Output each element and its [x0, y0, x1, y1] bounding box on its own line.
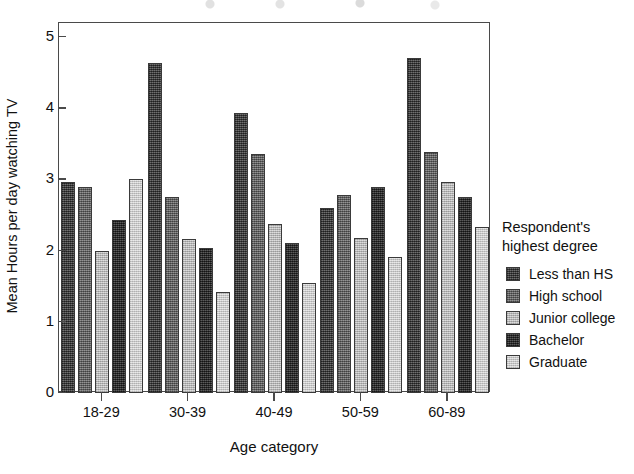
legend-item-label: Junior college [529, 310, 615, 326]
bar [371, 187, 385, 393]
legend-item: Bachelor [506, 329, 634, 351]
bar [61, 182, 75, 393]
legend-item: Less than HS [506, 263, 634, 285]
y-tick-line [58, 321, 66, 322]
bar [251, 154, 265, 393]
x-tick-line [101, 392, 102, 401]
bar [129, 179, 143, 393]
bar [216, 292, 230, 393]
legend-swatch [506, 333, 520, 347]
y-tick-label: 2 [46, 240, 54, 260]
legend-item: High school [506, 285, 634, 307]
bar [475, 227, 489, 393]
legend-item-label: Graduate [529, 354, 587, 370]
y-tick-line [58, 107, 66, 108]
bar [285, 243, 299, 393]
legend-item-label: High school [529, 288, 602, 304]
x-tick-line [446, 392, 447, 401]
y-tick-label: 0 [46, 382, 54, 402]
legend-swatch [506, 355, 520, 369]
legend-item-label: Less than HS [529, 266, 613, 282]
y-tick-label: 4 [46, 97, 54, 117]
bar [337, 195, 351, 393]
bar [199, 248, 213, 393]
legend-title-line2: highest degree [502, 238, 598, 254]
y-tick-line [58, 36, 66, 37]
x-tick-label: 60-89 [405, 404, 489, 420]
bar [320, 208, 334, 393]
legend-items: Less than HSHigh schoolJunior collegeBac… [502, 263, 634, 373]
bar [78, 187, 92, 393]
legend-swatch [506, 267, 520, 281]
y-tick-label: 5 [46, 26, 54, 46]
plot-area [58, 22, 490, 392]
bar [182, 239, 196, 393]
bar [268, 224, 282, 393]
bar [302, 283, 316, 393]
y-tick-label: 1 [46, 311, 54, 331]
y-axis-title-text: Mean Hours per day watching TV [4, 56, 20, 356]
bar [234, 113, 248, 393]
legend-title: Respondent'shighest degree [502, 218, 634, 256]
legend: Respondent'shighest degree Less than HSH… [502, 218, 634, 373]
x-tick-line [187, 392, 188, 401]
bar [458, 197, 472, 393]
y-tick-label: 3 [46, 168, 54, 188]
scan-artifact [150, 0, 490, 12]
x-tick-line [273, 392, 274, 401]
legend-swatch [506, 311, 520, 325]
bar [112, 220, 126, 393]
legend-item: Graduate [506, 351, 634, 373]
bar [95, 251, 109, 393]
y-tick-line [58, 178, 66, 179]
bar [165, 197, 179, 393]
x-axis-title: Age category [58, 438, 490, 455]
bar [354, 238, 368, 393]
x-tick-label: 30-39 [146, 404, 230, 420]
x-tick-label: 40-49 [232, 404, 316, 420]
chart-figure: Mean Hours per day watching TV 012345 18… [0, 0, 634, 474]
legend-item-label: Bachelor [529, 332, 584, 348]
legend-title-line1: Respondent's [502, 219, 590, 235]
legend-item: Junior college [506, 307, 634, 329]
bar [441, 182, 455, 393]
y-tick-line [58, 392, 66, 393]
x-tick-label: 50-59 [318, 404, 402, 420]
bar [388, 257, 402, 393]
bar [424, 152, 438, 393]
x-tick-label: 18-29 [59, 404, 143, 420]
y-tick-line [58, 250, 66, 251]
x-tick-line [360, 392, 361, 401]
bar [148, 63, 162, 393]
legend-swatch [506, 289, 520, 303]
bar [407, 58, 421, 393]
